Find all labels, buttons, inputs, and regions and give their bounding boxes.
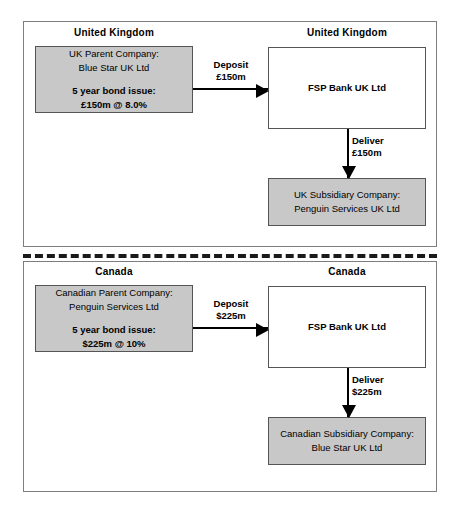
node-canadian-subsidiary-line1: Canadian Subsidiary Company: (280, 427, 414, 441)
node-canada-fsp-bank[interactable]: FSP Bank UK Ltd (268, 286, 426, 368)
flow-diagram: United Kingdom United Kingdom UK Parent … (0, 0, 460, 508)
arrow-canada-deliver (347, 368, 349, 417)
panel-divider (23, 254, 437, 258)
region-label-canada-right: Canada (268, 266, 426, 277)
edge-label-uk-deposit-line1: Deposit (196, 59, 266, 71)
node-uk-parent-line4: £150m @ 8.0% (81, 98, 147, 112)
node-canadian-subsidiary-company[interactable]: Canadian Subsidiary Company: Blue Star U… (268, 417, 426, 465)
edge-label-canada-deliver: Deliver $225m (352, 374, 422, 399)
node-uk-subsidiary-line1: UK Subsidiary Company: (294, 188, 400, 202)
node-uk-parent-company[interactable]: UK Parent Company: Blue Star UK Ltd 5 ye… (35, 46, 193, 113)
node-canadian-parent-line4: $225m @ 10% (82, 337, 145, 351)
node-canadian-parent-line1: Canadian Parent Company: (55, 286, 172, 300)
node-uk-parent-line2: Blue Star UK Ltd (79, 61, 150, 75)
edge-label-uk-deliver-line1: Deliver (352, 135, 422, 147)
node-canadian-subsidiary-line2: Blue Star UK Ltd (312, 441, 383, 455)
node-uk-parent-line1: UK Parent Company: (69, 47, 159, 61)
edge-label-uk-deliver-line2: £150m (352, 147, 422, 159)
node-uk-fsp-bank[interactable]: FSP Bank UK Ltd (268, 47, 426, 129)
arrowhead-uk-deposit-icon (256, 84, 269, 98)
arrowhead-uk-deliver-icon (342, 166, 356, 179)
node-canadian-parent-line3: 5 year bond issue: (72, 323, 155, 337)
arrow-canada-deposit (193, 327, 268, 329)
region-label-canada-left: Canada (35, 266, 193, 277)
node-canadian-parent-line2: Penguin Services Ltd (69, 300, 159, 314)
region-label-uk-left: United Kingdom (35, 27, 193, 38)
edge-label-canada-deposit-line2: $225m (196, 310, 266, 322)
arrow-uk-deposit (193, 88, 268, 90)
arrowhead-canada-deposit-icon (256, 323, 269, 337)
edge-label-uk-deposit-line2: £150m (196, 71, 266, 83)
node-uk-subsidiary-company[interactable]: UK Subsidiary Company: Penguin Services … (268, 178, 426, 226)
arrowhead-canada-deliver-icon (342, 405, 356, 418)
edge-label-uk-deposit: Deposit £150m (196, 59, 266, 84)
region-label-uk-right: United Kingdom (268, 27, 426, 38)
edge-label-canada-deliver-line2: $225m (352, 386, 422, 398)
node-uk-subsidiary-line2: Penguin Services UK Ltd (294, 202, 400, 216)
edge-label-canada-deposit-line1: Deposit (196, 298, 266, 310)
node-canada-fsp-bank-line1: FSP Bank UK Ltd (308, 320, 386, 334)
node-uk-fsp-bank-line1: FSP Bank UK Ltd (308, 81, 386, 95)
node-uk-parent-line3: 5 year bond issue: (72, 84, 155, 98)
edge-label-canada-deposit: Deposit $225m (196, 298, 266, 323)
edge-label-uk-deliver: Deliver £150m (352, 135, 422, 160)
node-canadian-parent-company[interactable]: Canadian Parent Company: Penguin Service… (35, 285, 193, 352)
edge-label-canada-deliver-line1: Deliver (352, 374, 422, 386)
arrow-uk-deliver (347, 129, 349, 178)
